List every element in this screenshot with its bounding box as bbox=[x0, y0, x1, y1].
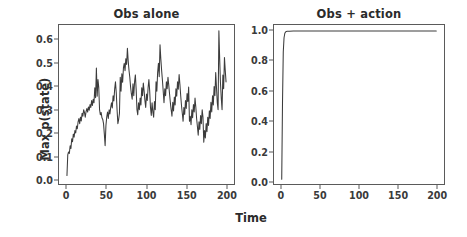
series-line-obs-alone bbox=[67, 31, 226, 176]
y-tick-mark bbox=[54, 62, 58, 63]
y-tick-mark bbox=[54, 156, 58, 157]
plot-area-left bbox=[58, 24, 235, 185]
y-tick-label: 0.0 bbox=[36, 175, 53, 186]
y-tick-mark bbox=[269, 181, 273, 182]
x-tick-label: 50 bbox=[313, 190, 326, 201]
x-tick-mark bbox=[66, 185, 67, 189]
x-tick-label: 0 bbox=[277, 190, 284, 201]
panel-title-right: Obs + action bbox=[273, 7, 445, 21]
x-tick-label: 50 bbox=[100, 190, 113, 201]
x-axis-label: Time bbox=[235, 211, 267, 225]
y-tick-mark bbox=[54, 39, 58, 40]
figure-canvas: Max p(state) Obs alone 0.00.10.20.30.40.… bbox=[0, 0, 467, 237]
y-tick-mark bbox=[269, 90, 273, 91]
y-tick-mark bbox=[54, 109, 58, 110]
x-tick-mark bbox=[226, 185, 227, 189]
x-tick-mark bbox=[319, 185, 320, 189]
series-line-obs-action-svg bbox=[274, 25, 444, 184]
y-tick-label: 0.6 bbox=[36, 34, 53, 45]
y-tick-mark bbox=[269, 30, 273, 31]
series-line-obs-alone-svg bbox=[59, 25, 234, 184]
y-tick-label: 0.5 bbox=[36, 57, 53, 68]
x-tick-label: 200 bbox=[217, 190, 237, 201]
x-tick-label: 150 bbox=[177, 190, 197, 201]
y-tick-label: 0.2 bbox=[251, 146, 268, 157]
y-tick-label: 0.6 bbox=[251, 85, 268, 96]
x-tick-label: 100 bbox=[349, 190, 369, 201]
y-tick-label: 0.4 bbox=[36, 81, 53, 92]
x-tick-mark bbox=[437, 185, 438, 189]
y-tick-label: 0.3 bbox=[36, 104, 53, 115]
x-tick-mark bbox=[398, 185, 399, 189]
x-tick-mark bbox=[186, 185, 187, 189]
x-tick-label: 200 bbox=[427, 190, 447, 201]
y-tick-mark bbox=[269, 60, 273, 61]
y-tick-label: 0.8 bbox=[251, 55, 268, 66]
x-tick-mark bbox=[146, 185, 147, 189]
y-tick-mark bbox=[54, 86, 58, 87]
series-line-obs-action bbox=[282, 31, 437, 179]
plot-area-right bbox=[273, 24, 445, 185]
y-tick-mark bbox=[269, 121, 273, 122]
x-tick-label: 150 bbox=[388, 190, 408, 201]
chart-panel-obs-action: Obs + action 0.00.20.40.60.81.0050100150… bbox=[273, 24, 445, 185]
y-tick-label: 0.0 bbox=[251, 176, 268, 187]
y-tick-mark bbox=[54, 133, 58, 134]
y-tick-mark bbox=[269, 151, 273, 152]
y-tick-mark bbox=[54, 180, 58, 181]
y-tick-label: 0.4 bbox=[251, 116, 268, 127]
chart-panel-obs-alone: Obs alone 0.00.10.20.30.40.50.6050100150… bbox=[58, 24, 235, 185]
x-tick-mark bbox=[280, 185, 281, 189]
panel-title-left: Obs alone bbox=[58, 7, 235, 21]
y-tick-label: 1.0 bbox=[251, 25, 268, 36]
x-tick-label: 0 bbox=[63, 190, 70, 201]
x-tick-mark bbox=[359, 185, 360, 189]
x-tick-label: 100 bbox=[136, 190, 156, 201]
y-tick-label: 0.1 bbox=[36, 151, 53, 162]
x-tick-mark bbox=[106, 185, 107, 189]
y-tick-label: 0.2 bbox=[36, 128, 53, 139]
